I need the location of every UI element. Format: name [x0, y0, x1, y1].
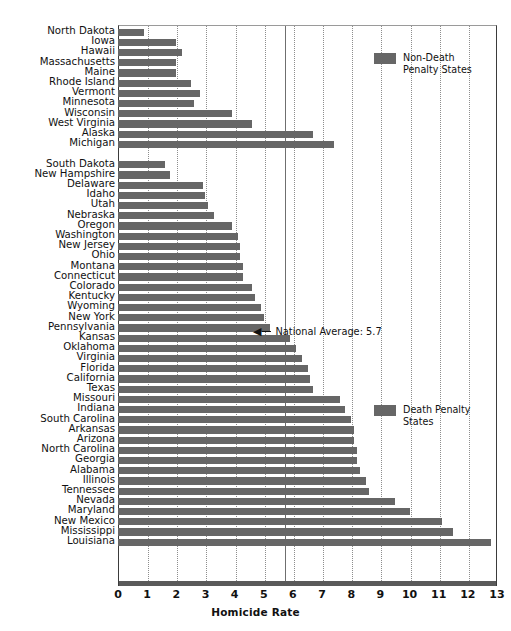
bar-row: Alabama: [0, 466, 511, 476]
legend-death-penalty: Death Penalty States: [374, 404, 470, 427]
bar: [118, 120, 252, 127]
x-tick-label-8: 8: [338, 588, 364, 601]
bar: [118, 29, 144, 36]
bar: [118, 192, 205, 199]
bar: [118, 528, 453, 535]
bar: [118, 202, 208, 209]
bar: [118, 69, 176, 76]
bar: [118, 304, 261, 311]
x-axis-bar: [118, 581, 497, 586]
x-tick-label-5: 5: [251, 588, 277, 601]
bar: [118, 508, 410, 515]
bar: [118, 49, 182, 56]
bar: [118, 447, 357, 454]
bar: [118, 406, 345, 413]
x-tick-label-13: 13: [484, 588, 510, 601]
bar: [118, 498, 395, 505]
bar-rows-container: North DakotaIowaHawaiiMassachusettsMaine…: [0, 25, 511, 581]
x-tick-label-9: 9: [367, 588, 393, 601]
bar: [118, 273, 243, 280]
x-tick-label-1: 1: [134, 588, 160, 601]
bar-row: Virginia: [0, 353, 511, 363]
bar-row: New Jersey: [0, 241, 511, 251]
bar: [118, 396, 340, 403]
x-tick-label-4: 4: [222, 588, 248, 601]
bar: [118, 355, 302, 362]
bar: [118, 437, 354, 444]
bar-row: Delaware: [0, 180, 511, 190]
bar-row: Michigan: [0, 139, 511, 149]
bar: [118, 243, 240, 250]
bar-row-label: Louisiana: [67, 535, 115, 546]
legend-non-death-penalty: Non-Death Penalty States: [374, 52, 472, 75]
x-tick-label-2: 2: [163, 588, 189, 601]
bar: [118, 171, 170, 178]
bar: [118, 141, 334, 148]
bar: [118, 294, 255, 301]
x-tick-label-3: 3: [192, 588, 218, 601]
bar: [118, 375, 310, 382]
legend-label-non-death: Non-Death Penalty States: [403, 52, 472, 75]
arrow-stem-icon: [262, 331, 271, 332]
bar: [118, 222, 232, 229]
bar-row: California: [0, 374, 511, 384]
legend-swatch-death-icon: [374, 405, 396, 416]
bar: [118, 131, 313, 138]
bar: [118, 518, 442, 525]
bar: [118, 161, 165, 168]
bar-row: North Dakota: [0, 27, 511, 37]
x-axis-label: Homicide Rate: [0, 606, 511, 618]
bar: [118, 416, 351, 423]
bar: [118, 90, 200, 97]
bar: [118, 110, 232, 117]
bar: [118, 324, 270, 331]
bar-row: West Virginia: [0, 119, 511, 129]
legend-label-death: Death Penalty States: [403, 404, 470, 427]
x-tick-label-12: 12: [455, 588, 481, 601]
bar-row: Idaho: [0, 190, 511, 200]
bar: [118, 80, 191, 87]
bar: [118, 426, 354, 433]
bar: [118, 100, 194, 107]
bar: [118, 39, 176, 46]
bar: [118, 477, 366, 484]
bar: [118, 386, 313, 393]
bar: [118, 59, 176, 66]
bar: [118, 284, 252, 291]
bar: [118, 253, 240, 260]
bar: [118, 539, 491, 546]
bar: [118, 467, 360, 474]
bar: [118, 365, 308, 372]
bar: [118, 233, 238, 240]
bar-row: Louisiana: [0, 537, 511, 547]
bar-row-label: Michigan: [69, 137, 115, 148]
x-tick-label-10: 10: [397, 588, 423, 601]
x-tick-label-11: 11: [426, 588, 452, 601]
bar: [118, 182, 203, 189]
bar: [118, 345, 296, 352]
national-average-label: National Average: 5.7: [275, 326, 381, 337]
x-tick-label-6: 6: [280, 588, 306, 601]
x-tick-label-7: 7: [309, 588, 335, 601]
bar: [118, 457, 357, 464]
bar: [118, 488, 369, 495]
national-average-annotation: ◀ National Average: 5.7: [253, 326, 382, 337]
bar: [118, 212, 214, 219]
bar: [118, 263, 243, 270]
bar: [118, 314, 264, 321]
x-tick-label-0: 0: [105, 588, 131, 601]
homicide-rate-bar-chart: North DakotaIowaHawaiiMassachusettsMaine…: [0, 0, 511, 631]
left-arrow-icon: ◀: [253, 326, 261, 337]
bar-row: Iowa: [0, 37, 511, 47]
legend-swatch-non-death-icon: [374, 53, 396, 64]
